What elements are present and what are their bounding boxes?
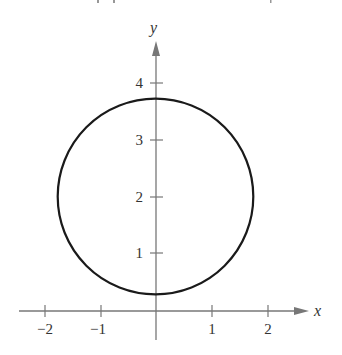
y-axis: y [148, 19, 160, 340]
y-tick-label: 1 [136, 245, 144, 261]
y-tick-labels: 1 2 3 4 [136, 75, 144, 261]
x-tick-labels: −2 −1 1 2 [37, 321, 272, 337]
x-tick-label: 2 [264, 321, 272, 337]
x-axis: x [19, 302, 321, 319]
clipped-text-fragment [97, 0, 272, 3]
x-axis-label: x [313, 302, 321, 319]
x-tick-label: 1 [208, 321, 216, 337]
x-tick-label: −1 [90, 321, 106, 337]
y-tick-label: 2 [136, 189, 144, 205]
y-axis-label: y [148, 19, 158, 37]
x-axis-arrow-icon [294, 307, 309, 315]
y-axis-arrow-icon [152, 41, 160, 56]
y-tick-label: 4 [136, 75, 144, 91]
y-tick-label: 3 [136, 132, 144, 148]
circle-graph: x y −2 −1 1 2 1 2 3 4 [0, 0, 342, 355]
x-tick-label: −2 [37, 321, 53, 337]
